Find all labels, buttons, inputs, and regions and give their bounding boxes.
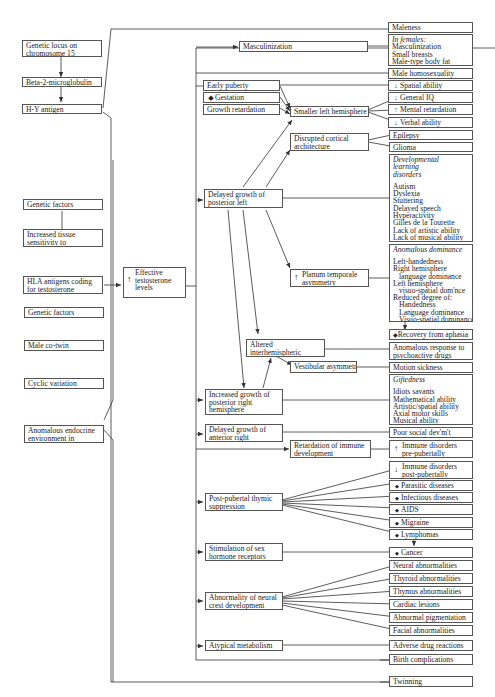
atypical-metabolism-box: Atypical metabolism: [205, 640, 283, 651]
down-arrow-icon: ↓: [392, 119, 400, 128]
genetic-factors-box-1: Genetic factors: [23, 199, 103, 210]
gestation-box: ◆Gestation: [203, 92, 280, 103]
planum-temporale-box: ↑ Planum temporale asymmetry: [290, 269, 369, 287]
masculinization-box: Masculinization: [239, 41, 368, 52]
box-label: Infectious diseases: [401, 493, 458, 502]
box-line: Visuo-spatial dominance: [393, 316, 469, 322]
cyclic-variation-box: Cyclic variation: [24, 378, 104, 389]
learning-disorders-box: Developmental learning disorders Autism …: [389, 154, 473, 242]
up-arrow-icon: ↑: [127, 276, 132, 284]
box-line: Poor maths ability: [393, 241, 469, 242]
box-label: HLA antigens coding for testosterone: [27, 277, 92, 294]
box-heading: Developmental learning disorders: [393, 156, 443, 178]
early-puberty-box: Early puberty: [203, 80, 280, 91]
glioma-box: Glioma: [389, 142, 473, 152]
vestibular-asymmetry-box: Vestibular asymmetry: [290, 361, 357, 373]
bullet-icon: ◆: [393, 550, 401, 558]
box-label: Altered interhemispheric balance: [250, 340, 301, 357]
box-label: Verbal ability: [400, 118, 441, 127]
box-label: Disrupted cortical architecture: [294, 134, 349, 151]
box-label: Masculinization: [243, 42, 292, 51]
box-label: Cancer: [401, 548, 423, 557]
smaller-left-hemisphere-box: Smaller left hemisphere: [290, 106, 369, 117]
up-arrow-icon: ↑: [394, 445, 398, 453]
bullet-icon: ◆: [393, 532, 401, 540]
immune-post-pubertal-box: ↓ Immune disorders post-pubertally: [389, 461, 473, 479]
adverse-drug-reactions-box: Adverse drug reactions: [389, 640, 473, 651]
box-label: Cyclic variation: [28, 379, 77, 388]
recovery-aphasia-box: ◆Recovery from aphasia: [389, 329, 473, 340]
birth-complications-box: Birth complications: [389, 654, 473, 665]
box-label: Anomalous response to psychoactive drugs: [393, 343, 464, 360]
bullet-icon: ◆: [393, 483, 401, 491]
general-iq-box: ↓General IQ: [388, 92, 473, 103]
sex-hormone-box: Stimulation of sex hormone receptors: [205, 543, 283, 561]
anomalous-dominance-box: Anomalous dominance Left-handedness Righ…: [389, 244, 473, 322]
box-label: Abnormality of neural crest development: [209, 593, 277, 610]
box-label: Twinning: [393, 677, 422, 686]
infectious-diseases-box: ◆Infectious diseases: [389, 492, 473, 503]
bullet-icon: ◆: [393, 507, 401, 515]
box-label: Immune disorders post-pubertally: [402, 462, 457, 479]
growth-retardation-box: Growth retardation: [203, 104, 280, 115]
migraine-box: ◆Migraine: [389, 517, 473, 528]
box-label: Male co-twin: [28, 341, 69, 350]
cancer-box: ◆Cancer: [389, 547, 473, 558]
box-label: Beta-2-microglobulin: [26, 78, 92, 87]
mental-retardation-box: ↑Mental retardation: [388, 104, 473, 115]
box-label: Lymphomas: [401, 530, 439, 539]
box-label: AIDS: [401, 505, 419, 514]
box-label: Birth complications: [393, 655, 453, 664]
box-label: Adverse drug reactions: [393, 641, 463, 650]
male-homosexuality-box: Male homosexuality: [388, 68, 473, 79]
endocrine-environment-box: Anomalous endocrine environment in pregn…: [24, 425, 104, 443]
hy-antigen-box: H-Y antigen: [22, 104, 102, 114]
up-arrow-icon: ↑: [392, 106, 400, 115]
box-heading: Anomalous dominance: [393, 246, 469, 253]
box-label: Facial abnormalities: [393, 626, 455, 635]
box-label: Increased tissue sensitivity to testoste…: [27, 230, 75, 247]
box-label: Maleness: [392, 23, 421, 32]
box-label: Motion sickness: [393, 363, 443, 372]
box-label: Growth retardation: [207, 105, 265, 114]
retardation-immune-box: Retardation of immune development: [290, 440, 371, 458]
abnormal-pigmentation-box: Abnormal pigmentation: [389, 612, 473, 623]
cardiac-lesions-box: Cardiac lesions: [389, 599, 473, 610]
delayed-left-hemisphere-box: Delayed growth of posterior left hemisph…: [204, 189, 283, 208]
box-label: General IQ: [400, 93, 434, 102]
male-cotwin-box: Male co-twin: [24, 340, 104, 351]
box-heading: Giftedness: [393, 376, 469, 383]
box-label: Glioma: [393, 143, 416, 152]
genetic-locus-box: Genetic locus on chromosome 15: [22, 40, 102, 57]
disrupted-cortical-box: Disrupted cortical architecture: [290, 133, 369, 151]
delayed-anterior-right-box: Delayed growth of anterior right hemisph…: [205, 424, 283, 442]
box-label: Early puberty: [207, 81, 249, 90]
box-label: Migraine: [401, 518, 429, 527]
epilepsy-box: Epilepsy: [389, 130, 473, 140]
box-label: Immune disorders pre-pubertally: [402, 441, 457, 458]
down-arrow-icon: ↓: [394, 466, 398, 474]
spatial-ability-box: ↓Spatial ability: [388, 80, 473, 91]
box-label: Parasitic diseases: [401, 481, 454, 490]
thymus-abnormalities-box: Thymus abnormalities: [389, 586, 473, 597]
psychoactive-response-box: Anomalous response to psychoactive drugs: [389, 342, 473, 360]
box-label: Delayed growth of anterior right hemisph…: [209, 425, 266, 442]
box-line: Musical ability: [393, 417, 469, 424]
verbal-ability-box: ↓Verbal ability: [388, 117, 473, 128]
giftedness-box: Giftedness Idiots savants Mathematical a…: [389, 374, 473, 425]
box-label: Abnormal pigmentation: [393, 613, 466, 622]
poor-social-box: Poor social dev'm't: [389, 427, 473, 438]
neural-crest-box: Abnormality of neural crest development: [205, 592, 283, 610]
causal-diagram: Genetic locus on chromosome 15 Beta-2-mi…: [0, 0, 495, 697]
box-label: Delayed growth of posterior left hemisph…: [208, 190, 265, 208]
box-label: H-Y antigen: [26, 105, 63, 114]
twinning-box: Twinning: [389, 676, 473, 687]
box-label: Atypical metabolism: [209, 641, 272, 650]
thymic-suppression-box: Post-pubertal thymic suppression: [205, 493, 283, 511]
box-label: Neural abnormalities: [393, 561, 457, 570]
motion-sickness-box: Motion sickness: [389, 362, 473, 373]
neural-abnormalities-box: Neural abnormalities: [389, 560, 473, 571]
box-label: Recovery from aphasia: [398, 330, 468, 339]
box-label: Thyroid abnormalities: [393, 574, 461, 583]
box-label: Epilepsy: [393, 131, 420, 140]
